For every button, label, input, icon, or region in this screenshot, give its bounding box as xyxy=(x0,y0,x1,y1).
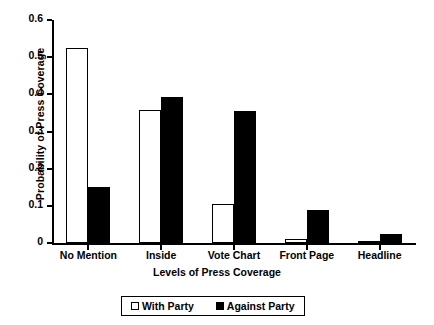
filled-square-icon xyxy=(216,302,224,310)
plot-area: 00.10.20.30.40.50.6 xyxy=(52,20,416,243)
bar-headline-against-party xyxy=(380,234,402,243)
y-tick-label-0: 0 xyxy=(37,235,43,247)
bar-front-page-with-party xyxy=(285,239,307,243)
bar-headline-with-party xyxy=(358,241,380,243)
bar-inside-with-party xyxy=(139,110,161,243)
y-tick-label-2: 0.2 xyxy=(28,161,43,173)
legend-label-against-party: Against Party xyxy=(227,300,295,312)
y-tick-0: 0 xyxy=(47,242,52,244)
legend-label-with-party: With Party xyxy=(142,300,194,312)
bar-no-mention-against-party xyxy=(88,187,110,243)
y-tick-label-4: 0.4 xyxy=(28,86,43,98)
y-tick-label-5: 0.5 xyxy=(28,49,43,61)
y-tick-label-6: 0.6 xyxy=(28,12,43,24)
category-label-front-page: Front Page xyxy=(279,249,334,261)
category-label-inside: Inside xyxy=(146,249,176,261)
legend-item-with-party: With Party xyxy=(131,300,194,312)
y-tick-5: 0.5 xyxy=(47,56,52,58)
y-tick-2: 0.2 xyxy=(47,168,52,170)
y-tick-1: 0.1 xyxy=(47,205,52,207)
category-label-no-mention: No Mention xyxy=(60,249,117,261)
y-tick-6: 0.6 xyxy=(47,19,52,21)
y-tick-label-3: 0.3 xyxy=(28,124,43,136)
bar-vote-chart-with-party xyxy=(212,204,234,243)
legend-item-against-party: Against Party xyxy=(216,300,295,312)
y-tick-label-1: 0.1 xyxy=(28,198,43,210)
open-square-icon xyxy=(131,302,139,310)
bar-vote-chart-against-party xyxy=(234,111,256,243)
category-label-vote-chart: Vote Chart xyxy=(208,249,260,261)
bar-front-page-against-party xyxy=(307,210,329,243)
bar-chart-figure: Probability of Press Coverage 00.10.20.3… xyxy=(0,0,434,325)
y-tick-3: 0.3 xyxy=(47,131,52,133)
y-tick-4: 0.4 xyxy=(47,93,52,95)
category-label-headline: Headline xyxy=(358,249,402,261)
bar-no-mention-with-party xyxy=(66,48,88,243)
x-axis-title: Levels of Press Coverage xyxy=(0,266,434,278)
chart-legend: With Party Against Party xyxy=(121,296,305,316)
bar-inside-against-party xyxy=(161,97,183,243)
y-axis-line xyxy=(52,20,54,243)
